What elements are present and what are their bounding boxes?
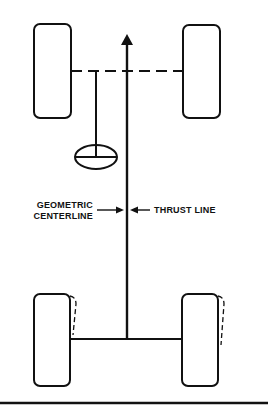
geometric-label-line2: CENTERLINE (19, 211, 93, 222)
front-right-wheel (183, 25, 220, 118)
geometric-label-line1: GEOMETRIC (19, 200, 93, 211)
arrow-left-icon (130, 207, 138, 214)
front-left-wheel (34, 24, 71, 118)
arrow-up-icon (121, 34, 133, 45)
geometric-centerline-label: GEOMETRIC CENTERLINE (19, 200, 93, 222)
arrow-right-icon (116, 207, 124, 214)
rear-right-wheel (182, 294, 218, 386)
thrust-line-label: THRUST LINE (154, 205, 216, 216)
rear-left-wheel (34, 294, 70, 386)
